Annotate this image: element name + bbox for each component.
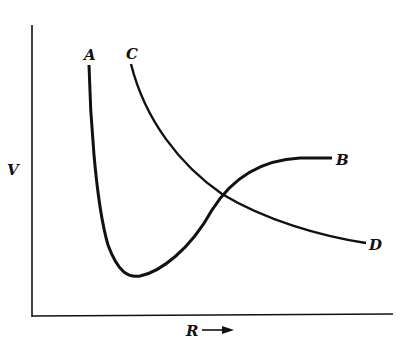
label-c: C: [126, 45, 138, 63]
y-axis-label: V: [7, 161, 20, 179]
curve-a-b: [89, 65, 332, 276]
potential-energy-diagram: A C B D V R: [0, 0, 409, 352]
diagram-svg: A C B D V R: [0, 0, 409, 352]
arrow-right-icon: [202, 326, 234, 334]
label-b: B: [335, 151, 349, 169]
label-a: A: [82, 46, 96, 64]
x-axis: [32, 314, 393, 316]
label-d: D: [368, 236, 382, 254]
x-axis-label: R: [185, 322, 198, 340]
curve-c-d: [131, 64, 366, 243]
